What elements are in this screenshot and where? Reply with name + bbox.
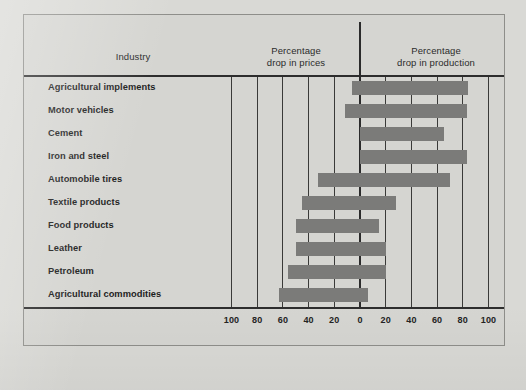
row-label-industry: Food products bbox=[48, 220, 114, 230]
bar bbox=[360, 150, 467, 164]
row-label-industry: Automobile tires bbox=[48, 174, 122, 184]
row-label-industry: Textile products bbox=[48, 197, 120, 207]
chart-row: Iron and steel bbox=[24, 146, 504, 169]
x-axis-tick-label: 100 bbox=[224, 315, 240, 325]
row-label-industry: Iron and steel bbox=[48, 151, 109, 161]
chart-header: Industry Percentage drop in prices Perce… bbox=[24, 15, 504, 75]
row-label-industry: Agricultural commodities bbox=[48, 289, 161, 299]
chart-row: Food products bbox=[24, 215, 504, 238]
bar bbox=[345, 104, 467, 118]
chart-row: Textile products bbox=[24, 192, 504, 215]
x-axis-tick-label: 100 bbox=[481, 315, 497, 325]
chart-page: Industry Percentage drop in prices Perce… bbox=[0, 0, 526, 390]
chart-row: Petroleum bbox=[24, 261, 504, 284]
bar bbox=[352, 81, 468, 95]
x-axis-tick-label: 80 bbox=[458, 315, 468, 325]
x-axis: 10080604020020406080100 bbox=[24, 307, 504, 345]
chart-row: Agricultural commodities bbox=[24, 284, 504, 307]
column-header-production: Percentage drop in production bbox=[368, 45, 504, 68]
x-axis-tick-label: 40 bbox=[303, 315, 313, 325]
chart-row: Agricultural implements bbox=[24, 77, 504, 100]
plot-area: Agricultural implementsMotor vehiclesCem… bbox=[24, 77, 504, 307]
bar bbox=[279, 288, 368, 302]
chart-panel: Industry Percentage drop in prices Perce… bbox=[23, 14, 505, 346]
bar bbox=[318, 173, 450, 187]
row-label-industry: Leather bbox=[48, 243, 82, 253]
bar bbox=[296, 242, 386, 256]
column-header-industry: Industry bbox=[48, 51, 218, 63]
chart-row: Automobile tires bbox=[24, 169, 504, 192]
x-axis-tick-label: 20 bbox=[329, 315, 339, 325]
row-label-industry: Petroleum bbox=[48, 266, 94, 276]
column-header-prices-line1: Percentage bbox=[271, 45, 321, 56]
row-label-industry: Agricultural implements bbox=[48, 82, 156, 92]
bar bbox=[296, 219, 380, 233]
row-label-industry: Cement bbox=[48, 128, 82, 138]
column-header-prices: Percentage drop in prices bbox=[242, 45, 350, 68]
x-axis-tick-label: 40 bbox=[406, 315, 416, 325]
column-header-prices-line2: drop in prices bbox=[267, 57, 325, 68]
x-axis-tick-label: 0 bbox=[357, 315, 362, 325]
bar bbox=[288, 265, 386, 279]
column-header-production-line1: Percentage bbox=[411, 45, 461, 56]
row-label-industry: Motor vehicles bbox=[48, 105, 114, 115]
x-axis-tick-label: 20 bbox=[380, 315, 390, 325]
x-axis-tick-label: 80 bbox=[252, 315, 262, 325]
bar bbox=[360, 127, 444, 141]
chart-row: Motor vehicles bbox=[24, 100, 504, 123]
chart-row: Leather bbox=[24, 238, 504, 261]
chart-row: Cement bbox=[24, 123, 504, 146]
column-header-industry-label: Industry bbox=[116, 51, 151, 62]
bar bbox=[302, 196, 396, 210]
column-header-production-line2: drop in production bbox=[397, 57, 475, 68]
x-axis-tick-label: 60 bbox=[432, 315, 442, 325]
x-axis-tick-label: 60 bbox=[278, 315, 288, 325]
